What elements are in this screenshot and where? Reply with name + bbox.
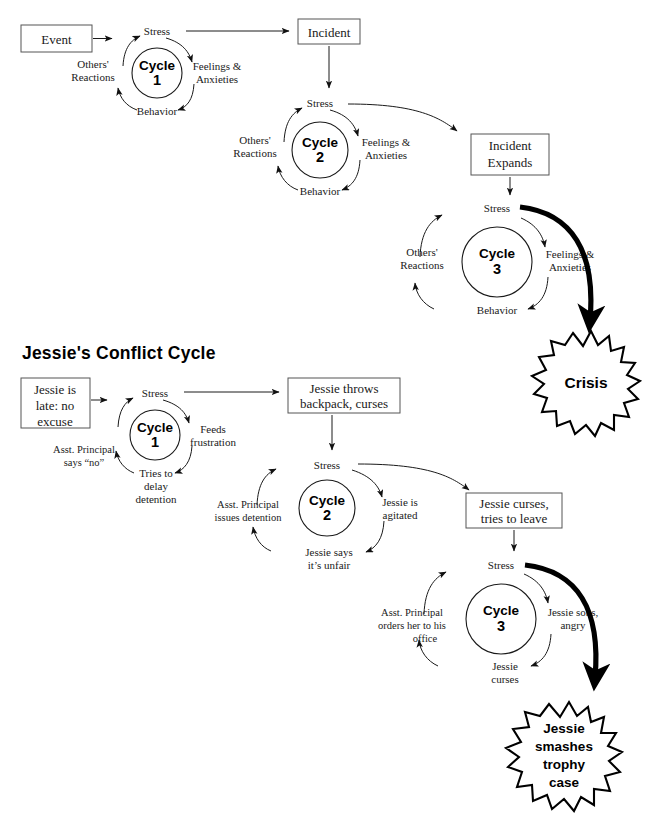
crisis-burst: Crisis	[532, 331, 640, 436]
incident-box: Incident	[298, 19, 360, 44]
jessie-cycle-3-node-bottom-line1: Jessie	[492, 660, 518, 672]
jessie-cycle-1-node-right-line1: Feeds	[200, 423, 226, 435]
jessie-throws-backpack-box: Jessie throws backpack, curses	[288, 378, 400, 413]
jessie-cycle-2-node-bottom-line1: Jessie says	[305, 546, 352, 558]
arrow-jcycle2-to-box3	[358, 464, 469, 490]
cycle-2-node-behavior: Behavior	[300, 185, 341, 197]
jessie-cycle-3-number: 3	[497, 618, 505, 634]
jessie-cycle-2-node-left-line2: issues detention	[215, 512, 283, 523]
jessie-cycle-2-node-stress: Stress	[314, 459, 340, 471]
cycle-2-word: Cycle	[302, 135, 339, 150]
jessie-cycle-1-node-bottom-line3: detention	[136, 493, 177, 505]
jessie-burst-line3: trophy	[543, 757, 585, 772]
jessie-cycle-1-node-right-line2: frustration	[190, 436, 236, 448]
jessie-curses-line1: Jessie curses,	[479, 496, 548, 511]
cycle-2-node-reactions-line1: Others'	[239, 134, 270, 146]
jessie-late-line1: Jessie is	[34, 382, 76, 397]
jessie-cycle-3-node-left-line1: Asst. Principal	[381, 607, 443, 618]
arc-jc3-sobs-to-curses	[531, 634, 551, 666]
jessie-curses-line2: tries to leave	[481, 511, 548, 526]
cycle-3-node-stress: Stress	[484, 202, 510, 214]
cycle-2-node-feelings-line1: Feelings &	[362, 136, 411, 148]
cycle-3-node-reactions-line1: Others'	[406, 246, 437, 258]
cycle-2-node-feelings-line2: Anxieties	[365, 149, 407, 161]
arc-c2-reactions-to-stress	[284, 108, 302, 142]
incident-expands-line1: Incident	[489, 138, 532, 153]
jessie-cycle-3-node-bottom-line2: curses	[491, 673, 519, 685]
arc-c3-behavior-to-reactions	[415, 283, 434, 309]
jessie-cycle-3-node-right-line2: angry	[560, 619, 586, 631]
incident-box-label: Incident	[308, 25, 351, 40]
arc-jc2-agitated-to-unfair	[366, 521, 384, 552]
jessie-late-line3: excuse	[37, 414, 73, 429]
page-title: Jessie's Conflict Cycle	[22, 343, 216, 363]
crisis-burst-label: Crisis	[564, 374, 607, 391]
jessie-cycle-1-word: Cycle	[137, 420, 174, 435]
jessie-cycle-2-node-bottom-line2: it’s unfair	[308, 559, 351, 571]
jessie-burst-line1: Jessie	[543, 721, 585, 736]
jessie-late-box: Jessie is late: no excuse	[21, 378, 90, 429]
jessie-cycle-2-node-right-line1: Jessie is	[382, 496, 418, 508]
jessie-cycle-1-number: 1	[151, 434, 159, 450]
arc-jc1-tries-to-asst	[116, 451, 134, 473]
jessie-cycle-2-node-right-line2: agitated	[383, 509, 418, 521]
jessie-cycle-1-node-stress: Stress	[142, 387, 168, 399]
jessie-cycle-2-number: 2	[323, 507, 331, 523]
jessie-throws-line2: backpack, curses	[300, 396, 388, 411]
jessie-cycle-3-node-left-line2: orders her to his	[378, 620, 446, 631]
jessie-burst-line2: smashes	[535, 739, 593, 754]
jessie-cycle-1-node-left-line1: Asst. Principal	[53, 444, 115, 455]
cycle-2-node-reactions-line2: Reactions	[233, 147, 276, 159]
cycle-2-node-stress: Stress	[307, 97, 333, 109]
incident-expands-line2: Expands	[488, 155, 533, 170]
cycle-1-word: Cycle	[139, 58, 176, 73]
jessie-outcome-burst: Jessie smashes trophy case	[506, 702, 622, 811]
jessie-cycle-1-node-bottom-line2: delay	[144, 480, 168, 492]
incident-expands-box: Incident Expands	[471, 134, 549, 175]
cycle-1-node-feelings-line2: Anxieties	[196, 73, 238, 85]
event-box-label: Event	[41, 32, 72, 47]
cycle-2-number: 2	[316, 149, 324, 165]
arrow-cycle2-to-incident-expands	[348, 104, 457, 131]
arc-c1-reactions-to-stress	[123, 36, 140, 66]
jessie-cycle-3-node-left-line3: office	[413, 633, 438, 644]
cycle-1-node-reactions-line1: Others'	[77, 58, 108, 70]
jessie-burst-line4: case	[549, 775, 580, 790]
jessie-cycle-1-node-bottom-line1: Tries to	[139, 467, 173, 479]
cycle-1-number: 1	[153, 72, 161, 88]
event-box: Event	[21, 25, 92, 52]
cycle-3-node-behavior: Behavior	[477, 304, 518, 316]
jessie-throws-line1: Jessie throws	[310, 381, 379, 396]
cycle-1-node-feelings-line1: Feelings &	[193, 60, 242, 72]
arc-jc2-stress-to-agitated	[352, 470, 382, 497]
cycle-1-node-reactions-line2: Reactions	[71, 71, 114, 83]
jessie-curses-leave-box: Jessie curses, tries to leave	[466, 493, 562, 528]
arc-c2-feelings-to-behavior	[342, 160, 360, 190]
diagram-canvas: Event Cycle 1 Stress Feelings & Anxietie…	[0, 0, 649, 828]
arc-c3-feelings-to-behavior	[528, 277, 548, 309]
arc-c2-stress-to-feelings	[330, 110, 358, 136]
arc-c1-behavior-to-reactions	[118, 88, 137, 110]
cycle-3-node-reactions-line2: Reactions	[400, 259, 443, 271]
arc-c2-behavior-to-reactions	[278, 166, 298, 190]
jessie-cycle-2-word: Cycle	[309, 493, 346, 508]
cycle-1-node-stress: Stress	[144, 25, 170, 37]
arc-jc1-left-to-stress	[118, 398, 133, 427]
arc-jc1-feeds-to-tries	[175, 446, 192, 473]
cycle-1-node-behavior: Behavior	[137, 105, 178, 117]
arc-jc2-unfair-to-asst	[253, 527, 271, 551]
jessie-cycle-2-node-left-line1: Asst. Principal	[217, 499, 279, 510]
jessie-cycle-3-node-stress: Stress	[488, 559, 514, 571]
jessie-cycle-3-word: Cycle	[483, 603, 520, 618]
jessie-cycle-1-node-left-line2: says “no”	[64, 457, 105, 468]
arc-jc3-stress-to-sobs	[524, 574, 548, 603]
arc-c3-stress-to-feelings	[521, 218, 545, 247]
cycle-3-word: Cycle	[479, 246, 516, 261]
jessie-late-line2: late: no	[36, 398, 75, 413]
arc-c1-feelings-to-behavior	[178, 84, 194, 110]
cycle-3-number: 3	[493, 261, 501, 277]
